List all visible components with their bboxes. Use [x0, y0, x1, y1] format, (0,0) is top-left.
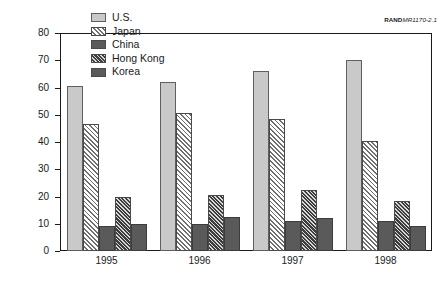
legend-label-japan: Japan	[112, 25, 141, 39]
legend-item-korea[interactable]: Korea	[91, 65, 165, 79]
x-axis-label-1995: 1995	[77, 254, 137, 268]
legend-swatch-hong-kong-icon	[91, 54, 106, 63]
y-axis-tick-label: 70	[9, 53, 49, 66]
bar-korea-1997	[317, 218, 333, 251]
bar-china-1995	[99, 226, 115, 251]
legend-swatch-u-s-icon	[91, 13, 106, 22]
bar-korea-1995	[131, 224, 147, 251]
legend-item-u-s[interactable]: U.S.	[91, 11, 165, 25]
y-axis-tick-mark	[55, 251, 60, 252]
legend-label-korea: Korea	[112, 65, 140, 79]
bar-u-s-1997	[253, 71, 269, 251]
bar-group-1996	[160, 33, 240, 251]
x-axis-label-1997: 1997	[263, 254, 323, 268]
y-axis-tick-label: 20	[9, 190, 49, 203]
bar-china-1998	[378, 221, 394, 251]
figure-container: RANDMR1170-2.1 Billions of U.S. dollars …	[0, 0, 445, 287]
legend-swatch-korea-icon	[91, 68, 106, 77]
bar-china-1997	[285, 221, 301, 251]
legend: U.S.JapanChinaHong KongKorea	[91, 11, 165, 79]
bar-u-s-1995	[67, 86, 83, 251]
bar-hong-kong-1997	[301, 190, 317, 251]
bar-hong-kong-1995	[115, 197, 131, 252]
legend-item-japan[interactable]: Japan	[91, 25, 165, 39]
y-axis-tick-label: 50	[9, 108, 49, 121]
bar-hong-kong-1998	[394, 201, 410, 251]
x-axis-labels: 1995199619971998	[60, 254, 432, 270]
source-credit: RANDMR1170-2.1	[384, 16, 437, 23]
bar-japan-1998	[362, 141, 378, 251]
source-credit-report-id: MR1170-2.1	[402, 16, 437, 23]
bar-korea-1998	[410, 226, 426, 251]
bar-japan-1997	[269, 119, 285, 251]
bar-hong-kong-1996	[208, 195, 224, 251]
legend-swatch-china-icon	[91, 40, 106, 49]
x-axis-label-1996: 1996	[170, 254, 230, 268]
y-axis-tick-label: 80	[9, 26, 49, 39]
bar-group-1997	[253, 33, 333, 251]
y-axis-tick-label: 40	[9, 135, 49, 148]
bar-u-s-1998	[346, 60, 362, 251]
legend-label-china: China	[112, 38, 139, 52]
bar-japan-1995	[83, 124, 99, 251]
y-axis-tick-label: 60	[9, 81, 49, 94]
legend-item-china[interactable]: China	[91, 38, 165, 52]
legend-label-u-s: U.S.	[112, 11, 132, 25]
bar-u-s-1996	[160, 82, 176, 251]
bar-china-1996	[192, 224, 208, 251]
y-axis-tick-label: 30	[9, 162, 49, 175]
legend-item-hong-kong[interactable]: Hong Kong	[91, 52, 165, 66]
y-axis-tick-label: 0	[9, 244, 49, 257]
legend-label-hong-kong: Hong Kong	[112, 52, 165, 66]
bar-korea-1996	[224, 217, 240, 251]
x-axis-label-1998: 1998	[356, 254, 416, 268]
y-axis-tick-label: 10	[9, 217, 49, 230]
bar-japan-1996	[176, 113, 192, 251]
source-credit-rand: RAND	[384, 16, 402, 23]
legend-swatch-japan-icon	[91, 27, 106, 36]
bar-group-1998	[346, 33, 426, 251]
